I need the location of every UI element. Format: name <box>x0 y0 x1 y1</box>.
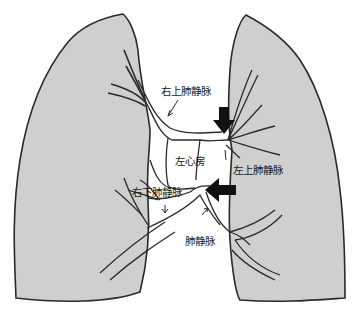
label-pulmonary-vein: 肺静脉 <box>185 236 215 247</box>
label-right-lower-pv: 右下肺静脉 <box>132 187 182 198</box>
label-left-atrium: 左心房 <box>175 156 205 167</box>
left-lung <box>229 15 345 301</box>
label-left-upper-pv: 左上肺静脉 <box>233 165 283 176</box>
label-right-upper-pv: 右上肺静脉 <box>161 86 211 97</box>
right-lung <box>14 14 150 301</box>
